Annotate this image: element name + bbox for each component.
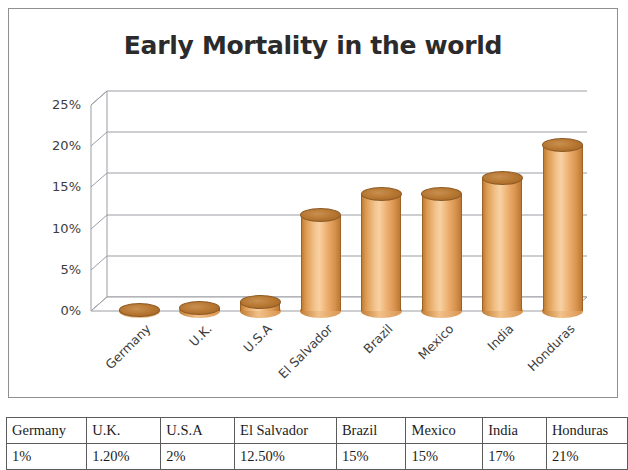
y-tick-label: 0% bbox=[31, 303, 81, 318]
bar-top-ellipse bbox=[482, 171, 523, 185]
y-tick-label: 15% bbox=[31, 179, 81, 194]
bar-top-ellipse bbox=[240, 295, 281, 309]
table-row: 1%1.20%2%12.50%15%15%17%21% bbox=[7, 444, 628, 470]
table-value-cell: 1% bbox=[7, 444, 87, 470]
table-header-cell: Germany bbox=[7, 418, 87, 444]
bar-brazil bbox=[361, 187, 401, 311]
y-tick-label: 20% bbox=[31, 138, 81, 153]
table-header-cell: U.K. bbox=[87, 418, 161, 444]
table-header-cell: Honduras bbox=[546, 418, 627, 444]
plot-area: 25% 20% 15% 10% 5% 0% GermanyU.K.U.S.AEl… bbox=[9, 9, 619, 399]
table-value-cell: 17% bbox=[483, 444, 547, 470]
data-table: GermanyU.K.U.S.AEl SalvadorBrazilMexicoI… bbox=[6, 417, 628, 470]
y-tick-label: 10% bbox=[31, 221, 81, 236]
table-value-cell: 21% bbox=[546, 444, 627, 470]
table-value-cell: 15% bbox=[406, 444, 483, 470]
bar-u-k bbox=[180, 301, 220, 311]
bar-germany bbox=[119, 303, 159, 311]
bar-top-ellipse bbox=[179, 301, 220, 315]
table-header-cell: U.S.A bbox=[161, 418, 235, 444]
y-tick-label: 25% bbox=[31, 97, 81, 112]
bar-body bbox=[301, 215, 341, 311]
bar-body bbox=[422, 194, 462, 311]
table-header-cell: Mexico bbox=[406, 418, 483, 444]
table-value-cell: 1.20% bbox=[87, 444, 161, 470]
table-header-cell: El Salvador bbox=[235, 418, 337, 444]
bar-u-s-a bbox=[240, 295, 280, 311]
bar-body bbox=[361, 194, 401, 311]
bar-top-ellipse bbox=[542, 138, 583, 152]
table-header-cell: India bbox=[483, 418, 547, 444]
y-tick-label: 5% bbox=[31, 262, 81, 277]
bar-body bbox=[482, 178, 522, 311]
bar-honduras bbox=[543, 138, 583, 311]
bar-top-ellipse bbox=[300, 208, 341, 222]
bar-top-ellipse bbox=[119, 303, 160, 317]
table-value-cell: 2% bbox=[161, 444, 235, 470]
table-header-row: GermanyU.K.U.S.AEl SalvadorBrazilMexicoI… bbox=[7, 418, 628, 444]
table-header-cell: Brazil bbox=[336, 418, 406, 444]
table-value-cell: 12.50% bbox=[235, 444, 337, 470]
chart-container: Early Mortality in the world bbox=[8, 8, 618, 398]
bar-india bbox=[482, 171, 522, 311]
table-value-cell: 15% bbox=[336, 444, 406, 470]
bar-body bbox=[543, 145, 583, 311]
bar-el-salvador bbox=[301, 208, 341, 311]
bar-mexico bbox=[422, 187, 462, 311]
